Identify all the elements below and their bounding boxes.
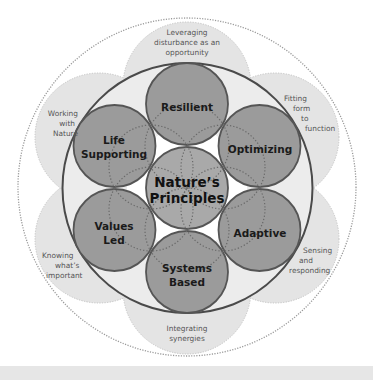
label-optimizing: Optimizing [228, 143, 292, 155]
practice-fitting-line4: function [305, 124, 336, 133]
practice-sensing-line1: Sensing [303, 246, 333, 255]
practice-fitting-line1: Fitting [284, 94, 307, 103]
natures-principles-diagram: Resilient Optimizing Adaptive Systems Ba… [0, 0, 373, 380]
label-supporting: Supporting [81, 148, 147, 160]
label-resilient: Resilient [161, 101, 213, 113]
practice-integrating-line1: Integrating [167, 324, 208, 333]
practice-sensing-line2: and [299, 256, 313, 265]
label-led: Led [103, 234, 124, 246]
practice-fitting-line2: form [293, 104, 310, 113]
label-center-line2: Principles [150, 190, 225, 206]
label-center-line1: Nature’s [154, 174, 219, 190]
label-adaptive: Adaptive [234, 227, 287, 239]
practice-knowing-line2: what’s [55, 261, 80, 270]
practice-working-line1: Working [48, 109, 78, 118]
label-values: Values [94, 220, 133, 232]
practice-knowing-line3: important [46, 271, 83, 280]
label-based: Based [169, 276, 205, 288]
practice-leveraging-line3: opportunity [165, 48, 209, 57]
practice-leveraging-line1: Leveraging [166, 28, 207, 37]
practice-leveraging-line2: disturbance as an [154, 38, 220, 47]
practice-integrating-line2: synergies [169, 334, 205, 343]
practice-working-line3: Nature [53, 129, 79, 138]
practice-fitting-line3: to [301, 114, 309, 123]
label-systems: Systems [162, 262, 212, 274]
circle-life-supporting [74, 105, 156, 187]
practice-working-line2: with [59, 119, 75, 128]
practice-sensing-line3: responding [289, 266, 331, 275]
label-life: Life [103, 134, 125, 146]
practice-knowing-line1: Knowing [42, 251, 74, 260]
bottom-strip [0, 366, 373, 380]
